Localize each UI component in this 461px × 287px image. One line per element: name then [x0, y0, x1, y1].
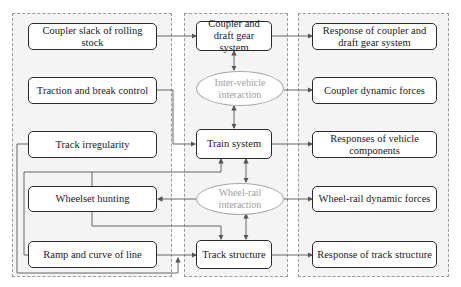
node-label: Ramp and curve of line — [43, 249, 142, 261]
node-label: Response of coupler and draft gear syste… — [316, 25, 433, 49]
ellipse-inter-vehicle-interaction: Inter-vehicle interaction — [196, 71, 284, 106]
node-label: Responses of vehicle components — [316, 133, 433, 157]
node-label: Wheel-rail dynamic forces — [319, 193, 431, 205]
node-ramp-curve: Ramp and curve of line — [28, 241, 157, 268]
node-label: Coupler slack of rolling stock — [32, 25, 153, 49]
node-label: Train system — [207, 138, 261, 150]
node-response-track-structure: Response of track structure — [312, 241, 437, 268]
node-wheelset-hunting: Wheelset hunting — [28, 186, 157, 212]
ellipse-label: Inter-vehicle interaction — [197, 77, 283, 101]
node-track-structure: Track structure — [196, 240, 272, 269]
node-coupler-slack: Coupler slack of rolling stock — [28, 23, 157, 50]
node-label: Coupler and draft gear system — [200, 18, 268, 54]
system-diagram: Coupler slack of rolling stock Traction … — [0, 0, 461, 287]
node-track-irregularity: Track irregularity — [28, 131, 157, 158]
ellipse-label: Wheel-rail interaction — [197, 187, 283, 211]
node-label: Track irregularity — [56, 139, 130, 151]
node-response-coupler-draft-gear: Response of coupler and draft gear syste… — [312, 23, 437, 50]
node-label: Wheelset hunting — [56, 193, 130, 205]
node-traction-break-control: Traction and break control — [28, 77, 157, 104]
node-coupler-dynamic-forces: Coupler dynamic forces — [312, 77, 437, 104]
node-train-system: Train system — [196, 129, 272, 159]
ellipse-wheel-rail-interaction: Wheel-rail interaction — [196, 183, 284, 215]
node-responses-vehicle-components: Responses of vehicle components — [312, 131, 437, 158]
node-label: Response of track structure — [317, 249, 432, 261]
node-coupler-draft-gear-system: Coupler and draft gear system — [196, 21, 272, 51]
node-label: Traction and break control — [37, 85, 148, 97]
node-label: Coupler dynamic forces — [324, 85, 425, 97]
node-wheel-rail-dynamic-forces: Wheel-rail dynamic forces — [312, 186, 437, 212]
node-label: Track structure — [202, 249, 265, 261]
